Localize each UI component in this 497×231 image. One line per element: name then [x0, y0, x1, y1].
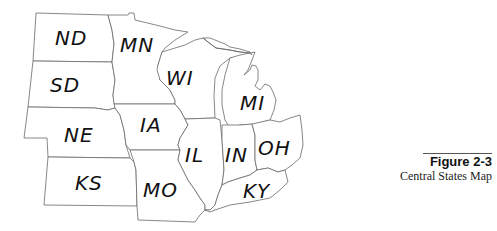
central-states-map: ND SD NE KS MN WI IA MO IL MI [0, 0, 400, 231]
state-label-in: IN [225, 143, 248, 167]
state-label-ks: KS [75, 171, 103, 195]
state-label-ia: IA [140, 113, 162, 137]
state-ks[interactable]: KS [44, 157, 137, 206]
state-ne[interactable]: NE [24, 107, 130, 158]
state-label-oh: OH [258, 136, 291, 160]
figure-subtitle: Central States Map [400, 169, 492, 183]
figure-number: Figure 2-3 [400, 155, 492, 169]
state-oh[interactable]: OH [252, 115, 303, 172]
state-nd[interactable]: ND [33, 13, 114, 62]
state-label-ky: KY [243, 179, 271, 203]
state-sd[interactable]: SD [28, 61, 115, 110]
state-label-nd: ND [55, 26, 87, 50]
state-label-mn: MN [120, 33, 154, 57]
state-label-il: IL [185, 143, 204, 167]
figure-caption: Figure 2-3 Central States Map [400, 153, 492, 183]
state-label-ne: NE [64, 123, 94, 147]
state-label-sd: SD [50, 73, 80, 97]
state-label-mo: MO [143, 178, 178, 202]
state-label-mi: MI [240, 91, 265, 115]
state-label-wi: WI [166, 66, 194, 90]
